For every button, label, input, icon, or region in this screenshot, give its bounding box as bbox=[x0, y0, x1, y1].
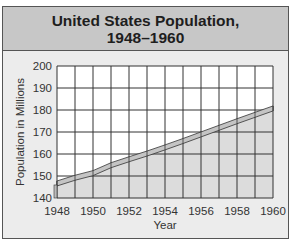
x-tick-label: 1950 bbox=[80, 205, 106, 217]
y-tick-label: 160 bbox=[33, 148, 52, 160]
y-tick-label: 200 bbox=[33, 60, 52, 72]
x-axis-label: Year bbox=[153, 219, 176, 231]
y-tick-label: 150 bbox=[33, 170, 52, 182]
y-tick-label: 170 bbox=[33, 126, 52, 138]
x-tick-label: 1956 bbox=[188, 205, 214, 217]
y-tick-label: 140 bbox=[33, 192, 52, 204]
x-tick-label: 1958 bbox=[224, 205, 250, 217]
y-tick-label: 180 bbox=[33, 104, 52, 116]
x-tick-label: 1948 bbox=[44, 205, 70, 217]
x-tick-label: 1954 bbox=[152, 205, 178, 217]
area-side-face bbox=[54, 185, 57, 198]
chart-plot: 2001901801701601501401948195019521954195… bbox=[0, 0, 293, 243]
y-axis-label: Population in Millions bbox=[14, 78, 26, 186]
x-tick-label: 1960 bbox=[260, 205, 286, 217]
x-tick-label: 1952 bbox=[116, 205, 142, 217]
y-tick-label: 190 bbox=[33, 82, 52, 94]
